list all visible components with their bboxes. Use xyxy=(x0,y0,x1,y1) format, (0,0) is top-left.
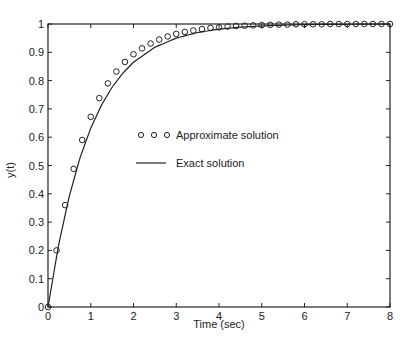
y-tick-label: 0.6 xyxy=(29,131,44,143)
y-tick-label: 0.8 xyxy=(29,75,44,87)
x-tick-label: 7 xyxy=(344,310,350,322)
data-point-marker xyxy=(88,114,94,120)
x-tick-label: 0 xyxy=(45,310,51,322)
legend: Approximate solution Exact solution xyxy=(136,129,279,169)
data-point-marker xyxy=(122,59,128,65)
y-tick-label: 0.3 xyxy=(29,216,44,228)
data-point-marker xyxy=(156,37,162,43)
data-point-marker xyxy=(114,69,120,75)
legend-exact-label: Exact solution xyxy=(176,157,244,169)
y-tick-label: 0.2 xyxy=(29,244,44,256)
data-point-marker xyxy=(54,248,60,254)
legend-marker-icon xyxy=(138,132,143,137)
x-tick-label: 2 xyxy=(130,310,136,322)
data-point-marker xyxy=(199,26,205,32)
data-point-marker xyxy=(131,51,137,57)
y-tick-label: 0.5 xyxy=(29,160,44,172)
data-point-marker xyxy=(191,28,197,34)
y-tick-label: 1 xyxy=(38,18,44,30)
data-point-marker xyxy=(79,137,85,143)
x-tick-label: 8 xyxy=(387,310,393,322)
axis-ticks: 01234567800.10.20.30.40.50.60.70.80.91 xyxy=(29,18,393,322)
y-tick-label: 0.9 xyxy=(29,46,44,58)
y-tick-label: 0.7 xyxy=(29,103,44,115)
x-tick-label: 5 xyxy=(259,310,265,322)
x-axis-label: Time (sec) xyxy=(193,318,245,330)
legend-marker-icon xyxy=(164,132,169,137)
data-point-marker xyxy=(182,29,188,35)
data-point-marker xyxy=(165,34,171,40)
y-tick-label: 0 xyxy=(38,301,44,313)
y-axis-label: y(t) xyxy=(4,162,16,178)
data-point-marker xyxy=(268,22,274,28)
data-point-marker xyxy=(173,31,179,37)
data-point-marker xyxy=(148,41,154,47)
data-point-marker xyxy=(105,81,111,87)
data-point-marker xyxy=(97,95,103,101)
data-point-marker xyxy=(139,46,145,52)
data-point-marker xyxy=(71,166,77,172)
y-tick-label: 0.1 xyxy=(29,273,44,285)
legend-approx-label: Approximate solution xyxy=(176,129,279,141)
legend-marker-icon xyxy=(151,132,156,137)
x-tick-label: 6 xyxy=(301,310,307,322)
x-tick-label: 3 xyxy=(173,310,179,322)
x-tick-label: 1 xyxy=(88,310,94,322)
y-tick-label: 0.4 xyxy=(29,188,44,200)
chart: 01234567800.10.20.30.40.50.60.70.80.91 A… xyxy=(0,0,413,348)
